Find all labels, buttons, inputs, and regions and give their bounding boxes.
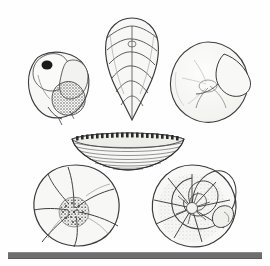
aperture	[42, 60, 53, 69]
specimen-top-right	[164, 38, 256, 130]
proloculus	[187, 203, 198, 214]
specimen-plate: Foraminifera specimen plate	[0, 0, 270, 266]
specimen-top-center	[96, 12, 168, 124]
specimen-bottom-right	[146, 162, 240, 250]
specimen-top-left	[18, 45, 106, 127]
specimen-bottom-left	[30, 162, 124, 250]
scale-bar	[8, 252, 262, 259]
